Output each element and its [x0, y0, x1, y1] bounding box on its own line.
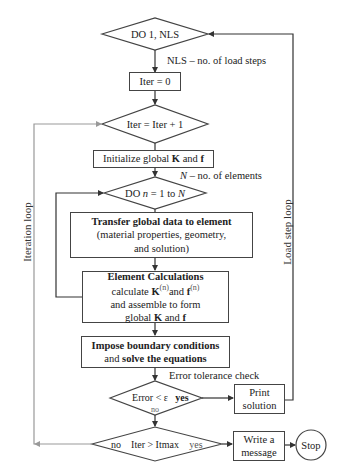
print-line1: Print: [249, 386, 269, 399]
iter-increment-label: Iter = Iter + 1: [127, 119, 184, 130]
iter-init-box: Iter = 0: [129, 72, 181, 91]
impose-box: Impose boundary conditions and solve the…: [81, 336, 230, 368]
print-line2: solution: [243, 399, 277, 412]
impose-line2: and solve the equations: [104, 352, 206, 365]
itmax-check-label: Iter > Itmax: [131, 439, 179, 450]
transfer-box: Transfer global data to element (materia…: [70, 212, 253, 258]
impose-line1: Impose boundary conditions: [92, 339, 220, 352]
print-solution-box: Print solution: [234, 384, 285, 414]
load-step-loop-label: Load step loop: [281, 192, 293, 272]
n-note: N – no. of elements: [180, 170, 262, 182]
transfer-line3: and solution): [134, 242, 189, 255]
element-calc-line2: calculate K(n)and f(n): [111, 283, 199, 298]
itmax-yes-label: yes: [189, 439, 202, 450]
iteration-loop-label: Iteration loop: [21, 192, 33, 272]
load-loop-label: DO 1, NLS: [131, 29, 179, 40]
initialize-box: Initialize global K and f: [93, 150, 214, 168]
write-message-box: Write a message: [233, 431, 285, 461]
write-line2: message: [241, 446, 277, 459]
transfer-title: Transfer global data to element: [91, 215, 231, 228]
element-loop-label: DO n = 1 to N: [125, 188, 185, 199]
stop-label: Stop: [301, 440, 320, 451]
element-calc-title: Element Calculations: [108, 270, 204, 283]
error-check-label: Error < ε: [132, 392, 168, 403]
write-line1: Write a: [244, 433, 275, 446]
error-yes-label: yes: [175, 392, 188, 403]
element-calc-line4: global K and f: [125, 311, 186, 324]
transfer-line2: (material properties, geometry,: [97, 228, 226, 241]
initialize-label: Initialize global K and f: [103, 152, 204, 165]
itmax-no-label: no: [111, 439, 121, 450]
tolerance-note: Error tolerance check: [169, 370, 259, 382]
error-no-label: no: [151, 405, 159, 414]
iter-init-label: Iter = 0: [140, 75, 171, 88]
element-calc-line3: and assemble to form: [110, 298, 200, 311]
element-calc-box: Element Calculations calculate K(n)and f…: [82, 271, 229, 323]
nls-note: NLS – no. of load steps: [167, 55, 266, 67]
